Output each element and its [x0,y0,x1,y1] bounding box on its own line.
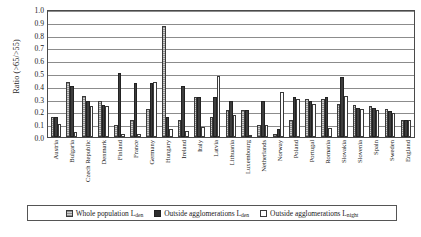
bar-group [366,11,382,137]
legend-swatch [66,210,73,217]
x-tick-label: Spain [372,140,379,155]
legend-label: Outside agglomerations Lnight [270,209,358,218]
x-label-cell: Germany [143,139,159,195]
bar [233,115,237,137]
x-tick-label: Sweden [388,140,395,161]
bar [169,129,173,137]
x-label-cell: Italy [191,139,207,195]
x-tick-label: Italy [196,140,203,152]
bar [376,110,380,137]
bar-group [255,11,271,137]
x-label-cell: Spain [367,139,383,195]
bar [118,73,122,137]
chart-figure: Ratio (>65/>55) 1.00.90.80.70.60.50.40.3… [0,0,421,237]
x-tick-label: Germany [148,140,155,165]
bar [360,109,364,137]
x-label-cell: Luxembourg [239,139,255,195]
bar-group [112,11,128,137]
bar [296,99,300,137]
y-tick-label: 0.4 [18,83,44,90]
chart-plot-area: Ratio (>65/>55) 1.00.90.80.70.60.50.40.3… [0,0,421,196]
bar [344,96,348,137]
bar [58,124,62,137]
x-label-cell: England [399,139,415,195]
bar [105,106,109,137]
y-tick-label: 0.8 [18,32,44,39]
x-tick-label: Lithuania [228,140,235,165]
x-tick-label: Slovenia [356,140,363,163]
bar-group [175,11,191,137]
bar-group [334,11,350,137]
x-tick-label: Slovakia [340,140,347,163]
bar [70,86,74,137]
x-label-cell: Slovenia [351,139,367,195]
bar-group [318,11,334,137]
x-tick-label: England [404,140,411,162]
legend-item[interactable]: Whole population Lden [66,209,144,218]
bar [217,76,221,137]
x-tick-label: Norway [276,140,283,161]
x-tick-label: Netherlands [260,140,267,172]
x-label-cell: Netherlands [255,139,271,195]
x-tick-label: Latvia [212,140,219,157]
x-tick-label: Bulgaria [68,140,75,163]
bar-group [287,11,303,137]
bar-group [159,11,175,137]
bar [153,82,157,137]
x-label-cell: Austria [47,139,63,195]
legend-swatch [154,210,161,217]
x-label-cell: Ireland [175,139,191,195]
x-tick-label: Hungary [164,140,171,163]
y-tick-label: 0.7 [18,45,44,52]
x-label-cell: Portugal [303,139,319,195]
bar-group [64,11,80,137]
x-label-cell: Latvia [207,139,223,195]
bar-group [223,11,239,137]
bar [280,92,284,137]
x-label-cell: Denmark [95,139,111,195]
bar [74,132,78,137]
y-tick-label: 0.6 [18,58,44,65]
bar-groups [48,11,414,137]
legend-label: Whole population Lden [76,209,144,218]
bar-group [350,11,366,137]
x-label-cell: Hungary [159,139,175,195]
y-tick-label: 0.9 [18,19,44,26]
bar [90,106,94,137]
bar-group [303,11,319,137]
x-label-cell: Norway [271,139,287,195]
bar [185,131,189,137]
legend-item[interactable]: Outside agglomerations Lden [154,209,249,218]
plot-frame [47,10,415,138]
bar [201,127,205,137]
x-tick-label: Portugal [308,140,315,162]
legend-label: Outside agglomerations Lden [164,209,249,218]
x-tick-label: Czech Republic [84,140,91,182]
x-tick-label: Finland [116,140,123,160]
y-tick-label: 0.0 [18,135,44,142]
x-tick-label: Denmark [100,140,107,165]
x-tick-label: Romania [324,140,331,164]
x-label-cell: Bulgaria [63,139,79,195]
chart-legend: Whole population LdenOutside agglomerati… [27,205,397,221]
x-label-cell: Finland [111,139,127,195]
bar-group [96,11,112,137]
bar-group [48,11,64,137]
x-tick-label: Poland [292,140,299,158]
legend-swatch [260,210,267,217]
bar-group [80,11,96,137]
bar [245,110,249,137]
y-tick-label: 0.3 [18,96,44,103]
bar [408,120,412,137]
bar [137,134,141,137]
bar-group [382,11,398,137]
x-label-cell: Slovakia [335,139,351,195]
x-tick-label: Austria [52,140,59,159]
bar-group [128,11,144,137]
y-tick-label: 1.0 [18,7,44,14]
y-tick-label: 0.5 [18,71,44,78]
bar-group [191,11,207,137]
bar [249,135,253,137]
legend-item[interactable]: Outside agglomerations Lnight [260,209,358,218]
bar-group [271,11,287,137]
